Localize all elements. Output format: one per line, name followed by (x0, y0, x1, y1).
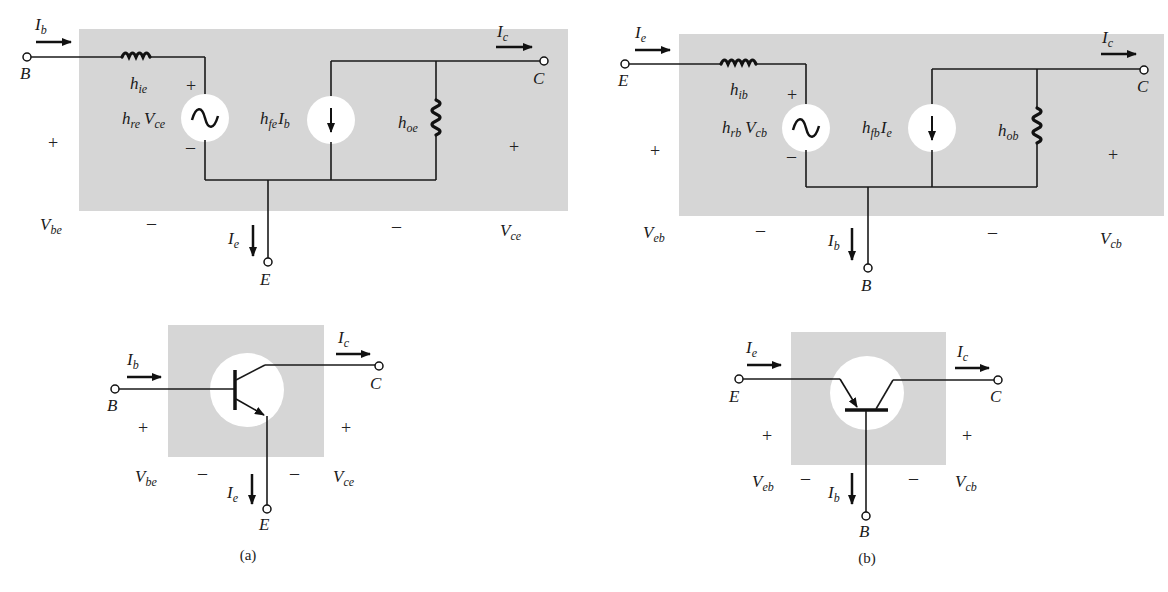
terminal-e (735, 375, 743, 383)
label-veb: Veb (752, 472, 774, 494)
terminal-e (264, 258, 272, 266)
label-ic: Ic (496, 22, 509, 44)
panel-b-equivalent-circuit: Ie E hib + – hrbVcb hfbIe hob Ic C + + V… (617, 23, 1164, 295)
label-ic: Ic (1101, 28, 1114, 50)
minus-sign: – (391, 216, 402, 236)
label-vce: Vce (333, 467, 355, 489)
panel-a-equivalent-circuit: Ib B hie + – hreVce hfeIb hoe Ic C + + V… (20, 15, 568, 289)
plus-sign: + (787, 85, 797, 105)
terminal-e (621, 60, 629, 68)
transistor-envelope (210, 353, 284, 427)
label-ie: Ie (634, 23, 647, 45)
minus-sign: – (755, 220, 766, 240)
label-ib: Ib (827, 483, 840, 505)
panel-a-transistor-symbol: Ib B Ic C + + Vbe – Ie E – Vce (a) (107, 325, 383, 564)
label-vcb: Vcb (955, 472, 977, 494)
plus-sign: + (1108, 145, 1118, 165)
minus-sign: – (800, 468, 811, 488)
label-e: E (258, 515, 270, 534)
label-vbe: Vbe (135, 467, 157, 489)
transistor-envelope (830, 356, 904, 430)
plus-sign: + (341, 418, 351, 438)
terminal-b (864, 264, 872, 272)
panel-b-transistor-symbol: Ie E Ic C + + Veb – Ib B – Vcb (b) (728, 332, 1002, 567)
plus-sign: + (650, 141, 660, 161)
minus-sign: – (146, 213, 157, 233)
minus-sign: – (987, 222, 998, 242)
label-e: E (259, 270, 271, 289)
label-ib: Ib (827, 231, 840, 253)
minus-sign: – (908, 468, 919, 488)
label-c: C (1137, 77, 1149, 96)
label-e: E (728, 387, 740, 406)
plus-sign: + (762, 426, 772, 446)
label-ic: Ic (337, 328, 350, 350)
label-b: B (859, 522, 870, 541)
label-ie: Ie (226, 483, 239, 505)
label-ie: Ie (745, 338, 758, 360)
label-veb: Veb (643, 223, 665, 245)
caption-a: (a) (240, 547, 257, 564)
minus-sign: – (786, 146, 797, 166)
label-c: C (990, 387, 1002, 406)
terminal-c (540, 57, 548, 65)
label-vcb: Vcb (1100, 229, 1122, 251)
hybrid-equivalent-figure: Ib B hie + – hreVce hfeIb hoe Ic C + + V… (0, 0, 1168, 592)
terminal-b (23, 53, 31, 61)
terminal-c (375, 362, 383, 370)
label-vbe: Vbe (40, 215, 62, 237)
terminal-b (862, 512, 870, 520)
minus-sign: – (185, 137, 196, 157)
terminal-c (1140, 66, 1148, 74)
terminal-e (263, 505, 271, 513)
plus-sign: + (186, 76, 196, 96)
label-ib: Ib (126, 350, 139, 372)
label-ib: Ib (34, 15, 47, 37)
label-ic: Ic (956, 342, 969, 364)
plus-sign: + (509, 137, 519, 157)
label-b: B (20, 64, 31, 83)
label-e: E (617, 71, 629, 90)
label-ie: Ie (227, 229, 240, 251)
plus-sign: + (48, 133, 58, 153)
minus-sign: – (289, 463, 300, 483)
terminal-c (994, 376, 1002, 384)
caption-b: (b) (858, 550, 876, 567)
label-c: C (370, 374, 382, 393)
label-b: B (861, 276, 872, 295)
plus-sign: + (138, 418, 148, 438)
terminal-b (111, 385, 119, 393)
label-c: C (533, 69, 545, 88)
plus-sign: + (962, 426, 972, 446)
label-vce: Vce (500, 221, 522, 243)
minus-sign: – (197, 463, 208, 483)
label-b: B (107, 396, 118, 415)
